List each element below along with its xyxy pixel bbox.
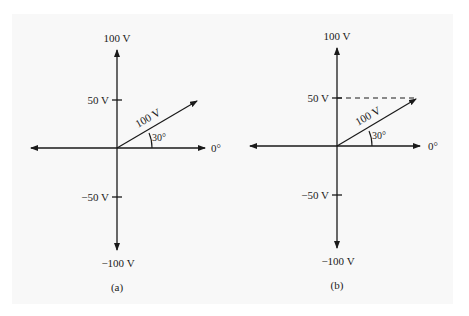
caption-b: (b) — [331, 279, 344, 292]
label-50v: 50 V — [308, 92, 330, 104]
angle-label: 30° — [372, 130, 386, 141]
panel-b: 100 V 50 V −50 V −100 V 0° 100 V 30° (b) — [250, 30, 438, 292]
label-neg50v: −50 V — [301, 189, 329, 201]
angle-label: 30° — [152, 132, 166, 143]
label-100v-top: 100 V — [104, 32, 131, 44]
label-50v: 50 V — [88, 94, 110, 106]
panel-a: 100 V 50 V −50 V −100 V 0° 100 V 30° (a) — [31, 32, 221, 294]
label-100v-top: 100 V — [324, 30, 351, 42]
caption-a: (a) — [111, 281, 124, 294]
phasor-figure: 100 V 50 V −50 V −100 V 0° 100 V 30° (a)… — [0, 0, 469, 316]
label-neg100v: −100 V — [321, 255, 354, 267]
vector-label: 100 V — [353, 104, 382, 128]
label-neg100v: −100 V — [101, 257, 134, 269]
label-0deg: 0° — [211, 142, 221, 154]
vector-label: 100 V — [133, 106, 162, 130]
label-0deg: 0° — [428, 140, 438, 152]
label-neg50v: −50 V — [81, 191, 109, 203]
